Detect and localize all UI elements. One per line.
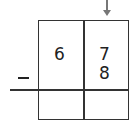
arrow-head: [103, 10, 111, 16]
column-divider: [83, 20, 85, 120]
tens-digit-top: 6: [54, 46, 65, 63]
ones-digit-bottom: 8: [99, 65, 110, 82]
ones-digit-top: 7: [99, 46, 110, 63]
minus-sign: [18, 77, 29, 79]
subtraction-line: [10, 89, 129, 91]
